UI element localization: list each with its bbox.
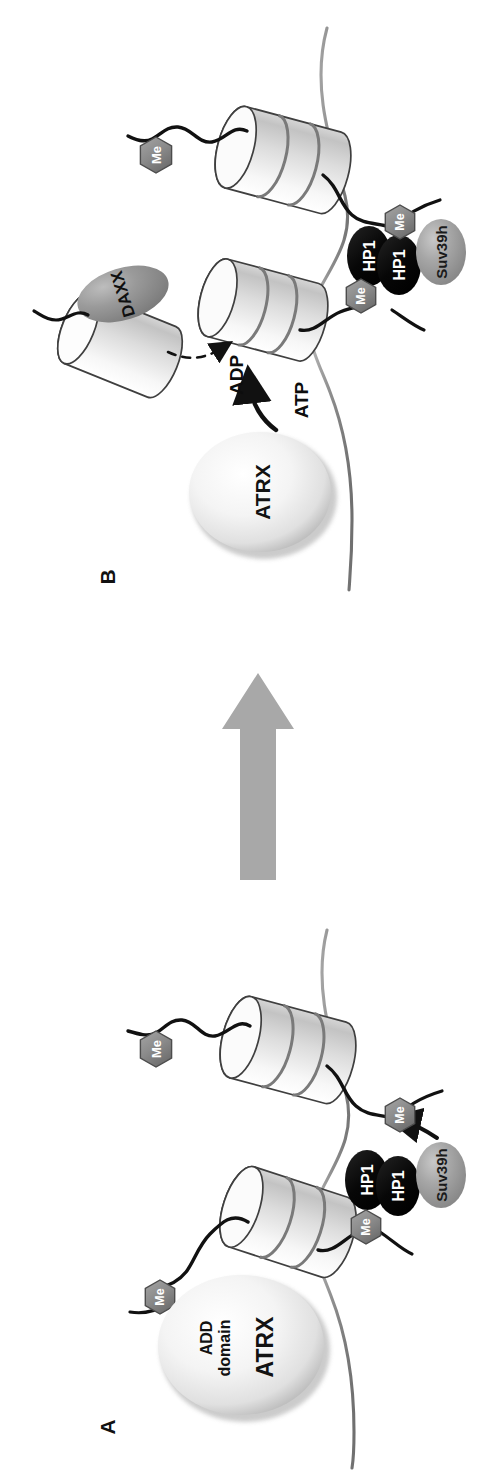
me-group-b-upper: Me [385, 205, 414, 239]
suv39h-label: Suv39h [433, 225, 450, 278]
me-group-a-upper: Me [385, 1098, 414, 1132]
add-domain-label-line1: ADD [198, 1321, 215, 1356]
nucleosome-upper-a [212, 992, 363, 1108]
suv39h-group-a: Suv39h [416, 1142, 466, 1208]
atrx-group-b: ATRX [189, 432, 337, 559]
histone-tail-a-lower-branch [380, 1232, 412, 1254]
panel-a-label: A [96, 1419, 120, 1434]
me-label: Me [149, 146, 164, 164]
add-domain-label-line2: domain [216, 1320, 233, 1377]
transition-arrow-shape [222, 673, 294, 880]
panel-b-label: B [96, 569, 120, 584]
me-label: Me [149, 1040, 164, 1058]
hp1-left-label: HP1 [359, 1164, 376, 1195]
atrx-blob [158, 1275, 324, 1415]
hp1-left-label: HP1 [361, 240, 378, 271]
panel-a-group: Me HP1 HP1 [128, 930, 466, 1468]
figure-canvas: B A [0, 0, 498, 1471]
me-label: Me [354, 287, 368, 304]
me-label: Me [153, 1288, 167, 1305]
suv39h-group-b: Suv39h [416, 219, 466, 285]
panel-b-group: Me HP1 HP1 [34, 28, 466, 590]
atp-adp-curved-arrow [250, 386, 276, 430]
nucleosome-lower-a [211, 1161, 364, 1282]
adp-label: ADP [226, 355, 247, 395]
hp1-dimer-a: HP1 HP1 [345, 1150, 420, 1216]
hp1-right-label: HP1 [390, 1170, 407, 1201]
nucleosome-upper-b [207, 102, 358, 218]
atrx-group-a: ATRX ADD domain [158, 1275, 330, 1422]
me-label: Me [393, 1106, 407, 1123]
hp1-right-label: HP1 [391, 249, 408, 280]
suv39h-label: Suv39h [433, 1148, 450, 1201]
atrx-label: ATRX [251, 464, 274, 520]
diagram-svg: Me HP1 HP1 [0, 0, 498, 1471]
atp-label: ATP [291, 381, 312, 418]
me-label: Me [393, 213, 407, 230]
me-label: Me [359, 1218, 373, 1235]
atrx-label: ATRX [252, 1316, 278, 1378]
nucleosome-lower-b [191, 255, 335, 365]
transition-arrow [222, 673, 294, 880]
histone-tail-b-lower-branch [392, 310, 424, 330]
